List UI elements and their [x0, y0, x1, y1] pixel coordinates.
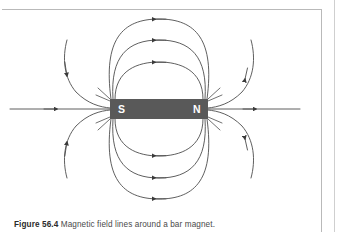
- figure-caption: Figure 56.4 Magnetic field lines around …: [14, 219, 314, 230]
- north-pole-label: N: [193, 103, 201, 115]
- inner-loop-bottom: [115, 119, 203, 156]
- middle-loop-bottom: [113, 119, 206, 178]
- bar-magnet: S N: [110, 99, 208, 119]
- magnetic-field-diagram: S N: [0, 0, 337, 214]
- outer-loop-bottom: [109, 119, 209, 199]
- inner-loop-top: [115, 62, 203, 99]
- middle-loop-top: [113, 40, 206, 99]
- figure-caption-text: Magnetic field lines around a bar magnet…: [61, 220, 215, 229]
- open-line-upper-right-arrow: [245, 68, 248, 80]
- figure-page: S N Figure 56.4 Magnetic field lines aro…: [0, 0, 337, 232]
- figure-caption-label: Figure 56.4: [14, 220, 58, 229]
- open-line-lower-right-arrow: [245, 138, 248, 150]
- south-pole-label: S: [118, 103, 125, 115]
- outer-loop-top: [109, 19, 209, 99]
